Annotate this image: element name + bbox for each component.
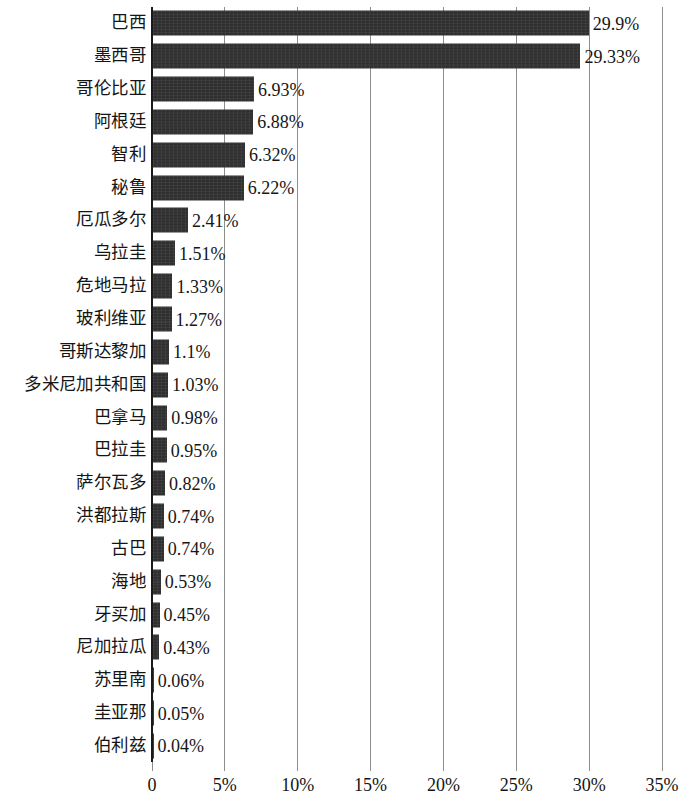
x-tick-mark [662, 762, 663, 771]
bar [153, 536, 164, 561]
bar-row: 苏里南0.06% [0, 664, 680, 697]
category-label: 智利 [111, 146, 146, 164]
bar-value-label: 0.04% [154, 737, 205, 755]
bar-value-label: 2.41% [188, 211, 239, 229]
bar [153, 77, 254, 102]
bar-row: 洪都拉斯0.74% [0, 500, 680, 533]
bar-track: 6.88% [153, 109, 680, 134]
bar-track: 29.9% [153, 11, 680, 36]
x-tick-mark [443, 762, 444, 771]
bar [153, 175, 244, 200]
bar-value-label: 1.1% [169, 343, 211, 361]
bar [153, 438, 167, 463]
category-label: 哥斯达黎加 [59, 343, 146, 361]
bar-value-label: 1.33% [172, 277, 223, 295]
bar-value-label: 0.05% [154, 704, 205, 722]
bar-value-label: 6.93% [254, 80, 305, 98]
bar-value-label: 1.27% [172, 310, 223, 328]
bar-value-label: 0.95% [167, 441, 218, 459]
bar-row: 古巴0.74% [0, 533, 680, 566]
bar-track: 6.32% [153, 142, 680, 167]
bar-value-label: 0.82% [165, 474, 216, 492]
bar-row: 哥斯达黎加1.1% [0, 335, 680, 368]
bar-value-label: 0.53% [161, 573, 212, 591]
category-label: 洪都拉斯 [76, 507, 146, 525]
bar-row: 萨尔瓦多0.82% [0, 467, 680, 500]
bar-value-label: 6.22% [244, 179, 295, 197]
bar-track: 0.53% [153, 569, 680, 594]
bar-row: 秘鲁6.22% [0, 171, 680, 204]
bar-row: 多米尼加共和国1.03% [0, 368, 680, 401]
bar-track: 1.51% [153, 241, 680, 266]
bar-track: 0.06% [153, 668, 680, 693]
x-tick-label: 20% [427, 776, 460, 794]
bar [153, 142, 245, 167]
bar [153, 569, 161, 594]
bar-row: 墨西哥29.33% [0, 40, 680, 73]
bar-track: 0.95% [153, 438, 680, 463]
bar [153, 372, 168, 397]
bar-row: 海地0.53% [0, 565, 680, 598]
bar-value-label: 29.33% [580, 47, 640, 65]
category-label: 巴拉圭 [94, 442, 146, 460]
bar [153, 241, 175, 266]
bar [153, 11, 589, 36]
bar-row: 阿根廷6.88% [0, 106, 680, 139]
category-label: 牙买加 [94, 606, 146, 624]
bar-value-label: 1.51% [175, 244, 226, 262]
x-tick-label: 10% [281, 776, 314, 794]
bar-value-label: 1.03% [168, 376, 219, 394]
bar-track: 0.04% [153, 733, 680, 758]
x-tick-label: 0 [148, 776, 157, 794]
category-label: 秘鲁 [111, 179, 146, 197]
category-label: 巴拿马 [94, 409, 146, 427]
bar-row: 危地马拉1.33% [0, 270, 680, 303]
category-label: 乌拉圭 [94, 245, 146, 263]
bar-row: 哥伦比亚6.93% [0, 73, 680, 106]
bar [153, 44, 580, 69]
bar-track: 0.82% [153, 471, 680, 496]
bar-value-label: 0.74% [164, 540, 215, 558]
bar [153, 339, 169, 364]
category-label: 巴西 [111, 15, 146, 33]
bar-row: 尼加拉瓜0.43% [0, 631, 680, 664]
bar-row: 伯利兹0.04% [0, 730, 680, 763]
bar-row: 玻利维亚1.27% [0, 303, 680, 336]
bar-track: 0.74% [153, 504, 680, 529]
bar-track: 0.05% [153, 701, 680, 726]
x-tick-mark [224, 762, 225, 771]
bar-rows: 巴西29.9%墨西哥29.33%哥伦比亚6.93%阿根廷6.88%智利6.32%… [0, 7, 680, 762]
category-label: 墨西哥 [94, 48, 146, 66]
category-label: 玻利维亚 [76, 310, 146, 328]
bar-row: 牙买加0.45% [0, 598, 680, 631]
bar-row: 智利6.32% [0, 138, 680, 171]
x-tick-label: 15% [354, 776, 387, 794]
category-label: 尼加拉瓜 [76, 639, 146, 657]
bar-track: 1.27% [153, 307, 680, 332]
bar-track: 0.43% [153, 635, 680, 660]
x-axis: 05%10%15%20%25%30%35% [0, 762, 680, 794]
x-tick-label: 30% [573, 776, 606, 794]
x-tick-mark [297, 762, 298, 771]
bar-value-label: 29.9% [589, 14, 640, 32]
bar [153, 405, 167, 430]
bar-track: 29.33% [153, 44, 680, 69]
bar-track: 1.1% [153, 339, 680, 364]
category-label: 哥伦比亚 [76, 80, 146, 98]
category-label: 古巴 [111, 540, 146, 558]
x-tick-mark [589, 762, 590, 771]
bar-value-label: 0.98% [167, 409, 218, 427]
x-tick-mark [370, 762, 371, 771]
x-tick-label: 35% [646, 776, 679, 794]
bar-row: 巴拿马0.98% [0, 401, 680, 434]
x-tick-mark [152, 762, 153, 771]
x-tick-label: 25% [500, 776, 533, 794]
bar-track: 0.45% [153, 602, 680, 627]
category-label: 海地 [111, 573, 146, 591]
bar-row: 圭亚那0.05% [0, 697, 680, 730]
bar-value-label: 6.88% [253, 113, 304, 131]
bar [153, 208, 188, 233]
bar-row: 厄瓜多尔2.41% [0, 204, 680, 237]
x-tick-label: 5% [213, 776, 237, 794]
bar-value-label: 0.45% [160, 606, 211, 624]
